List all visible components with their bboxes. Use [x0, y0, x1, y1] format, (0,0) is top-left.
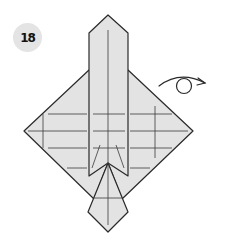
center-column — [89, 15, 128, 176]
turn-over-circle — [177, 79, 192, 94]
origami-step-diagram: 18 — [0, 0, 226, 251]
origami-model — [0, 0, 226, 251]
turn-over-icon — [159, 77, 205, 93]
paper-body — [24, 15, 193, 232]
